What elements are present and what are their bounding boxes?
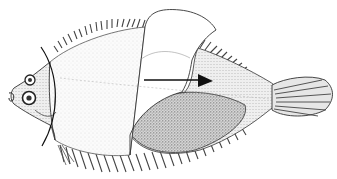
- upper-eye: [25, 75, 35, 85]
- caudal-fin: [272, 77, 333, 116]
- flatfish-illustration: [0, 0, 337, 179]
- lower-eye: [23, 92, 36, 105]
